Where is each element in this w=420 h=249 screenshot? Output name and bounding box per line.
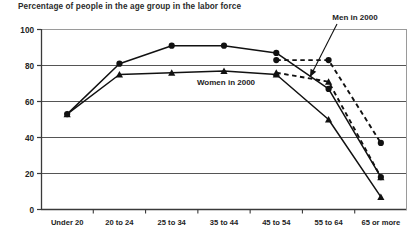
x-category-label-2: 25 to 34	[158, 218, 187, 227]
marker-circle-s1-p1	[116, 61, 122, 67]
y-tick-label-40: 40	[25, 134, 35, 143]
marker-circle-s1-p3	[221, 43, 227, 49]
marker-circle-s0-p5	[325, 57, 331, 63]
x-category-label-3: 35 to 44	[210, 218, 239, 227]
x-axis-category-labels: Under 2020 to 2425 to 3435 to 4445 to 54…	[51, 218, 400, 227]
x-category-label-1: 20 to 24	[105, 218, 134, 227]
marker-circle-s1-p2	[169, 43, 175, 49]
y-axis-ticks	[37, 30, 41, 210]
chart-page: Percentage of people in the age group in…	[0, 0, 420, 249]
marker-circle-s0-p4	[273, 57, 279, 63]
y-axis-tick-labels: 020406080100	[20, 26, 34, 215]
annotation-leader-0	[310, 24, 337, 77]
plot-gridlines	[41, 30, 407, 174]
y-tick-label-100: 100	[20, 26, 34, 35]
annotations: Men in 2000Women in 2000	[197, 13, 378, 87]
x-category-label-5: 55 to 64	[314, 218, 343, 227]
series-markers	[64, 43, 385, 200]
y-tick-label-60: 60	[25, 98, 35, 107]
marker-circle-s0-p6	[378, 140, 384, 146]
x-category-label-0: Under 20	[51, 218, 84, 227]
annotation-label-1: Women in 2000	[197, 78, 256, 87]
annotation-label-0: Men in 2000	[332, 13, 378, 22]
y-tick-label-20: 20	[25, 170, 35, 179]
y-tick-label-80: 80	[25, 62, 35, 71]
line-chart: 020406080100 Under 2020 to 2425 to 3435 …	[0, 0, 420, 249]
marker-circle-s1-p4	[273, 50, 279, 56]
plot-frame	[41, 29, 407, 210]
y-tick-label-0: 0	[29, 206, 34, 215]
x-category-label-6: 65 or more	[361, 218, 400, 227]
series-line-3	[67, 71, 381, 197]
x-category-label-4: 45 to 54	[262, 218, 291, 227]
marker-circle-s1-p5	[325, 86, 331, 92]
caption-strip	[0, 235, 420, 249]
